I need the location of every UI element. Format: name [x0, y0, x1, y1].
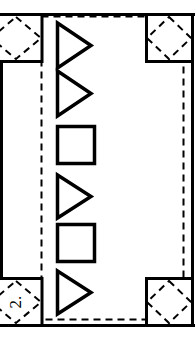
- corner-box-top-left: [0, 15, 42, 62]
- corner-box-bottom-left: 2.: [0, 279, 42, 326]
- corner-box-bottom-right: [147, 279, 193, 326]
- figure-number-label: 2.: [6, 296, 25, 309]
- corner-box-bottom-right-outline: [147, 279, 193, 326]
- corner-box-top-right: [147, 15, 193, 62]
- corner-box-top-right-outline: [147, 15, 193, 62]
- diagram-canvas: 2.: [0, 0, 195, 344]
- figure-container: 2.: [0, 0, 195, 344]
